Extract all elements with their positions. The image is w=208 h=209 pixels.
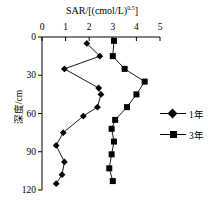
data-point-diamond <box>95 85 102 92</box>
data-point-diamond <box>61 65 68 72</box>
data-point-diamond <box>61 159 68 166</box>
data-point-diamond <box>53 180 60 187</box>
data-point-square <box>106 165 112 171</box>
data-point-square <box>111 139 117 145</box>
legend-item-3nian: 3年 <box>160 124 208 145</box>
data-point-square <box>142 79 148 85</box>
axes <box>38 37 160 190</box>
sar-depth-chart: SAR/[(cmol/L)0.5] 012345 0306090120 深度/c… <box>0 0 208 209</box>
diamond-marker-icon <box>168 108 178 118</box>
legend-swatch-diamond <box>160 108 186 120</box>
chart-legend: 1年 3年 <box>160 103 208 145</box>
legend-swatch-square <box>160 129 186 141</box>
data-point-square <box>122 66 128 72</box>
square-marker-icon <box>170 131 177 138</box>
data-point-square <box>109 151 115 157</box>
data-point-square <box>110 178 116 184</box>
data-point-diamond <box>53 142 60 149</box>
data-series-group <box>53 38 148 187</box>
data-point-square <box>133 91 139 97</box>
data-point-square <box>124 104 130 110</box>
legend-label-1nian: 1年 <box>186 107 204 121</box>
data-point-square <box>110 53 116 59</box>
data-point-diamond <box>59 171 66 178</box>
legend-label-3nian: 3年 <box>186 128 204 142</box>
data-point-diamond <box>98 91 105 98</box>
data-point-square <box>112 117 118 123</box>
data-point-diamond <box>94 104 101 111</box>
data-point-square <box>111 38 117 44</box>
data-point-square <box>109 126 115 132</box>
series-line-3年 <box>109 41 144 181</box>
legend-item-1nian: 1年 <box>160 103 208 124</box>
